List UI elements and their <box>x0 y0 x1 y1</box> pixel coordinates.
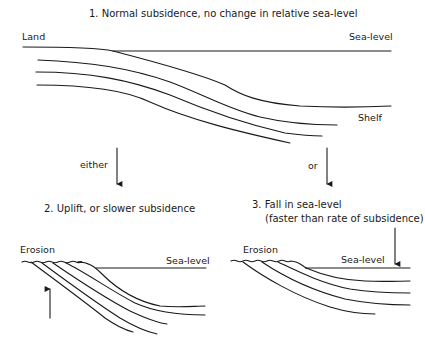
panel3-layer-1 <box>306 268 410 281</box>
panel1-layer-a <box>38 60 337 125</box>
panel3-subtitle: (faster than rate of subsidence) <box>265 214 424 224</box>
panel3-erosion-label: Erosion <box>243 245 278 255</box>
panel2-layer-1 <box>78 262 205 307</box>
panel3-title: 3. Fall in sea-level <box>252 200 342 210</box>
land-label: Land <box>22 32 45 42</box>
panel1-title: 1. Normal subsidence, no change in relat… <box>89 9 358 19</box>
panel2-sea-level-label: Sea-level <box>166 256 210 266</box>
panel2-layer-3 <box>53 263 167 324</box>
panel3-layer-2 <box>278 262 410 293</box>
either-label: either <box>80 160 108 170</box>
panel2-layer-5 <box>31 262 133 332</box>
panel2-layer-4 <box>42 263 157 334</box>
panel3-strata <box>231 260 410 314</box>
panel2-erosion-label: Erosion <box>20 245 55 255</box>
panel1-strata <box>23 47 391 143</box>
panel1-sea-level-label: Sea-level <box>349 32 393 42</box>
panel2-title: 2. Uplift, or slower subsidence <box>44 204 195 214</box>
shelf-label: Shelf <box>358 113 382 123</box>
or-label: or <box>308 161 318 171</box>
diagram-canvas <box>0 0 425 346</box>
panel3-sea-level-label: Sea-level <box>341 255 385 265</box>
panel1-layer-c <box>37 85 290 143</box>
